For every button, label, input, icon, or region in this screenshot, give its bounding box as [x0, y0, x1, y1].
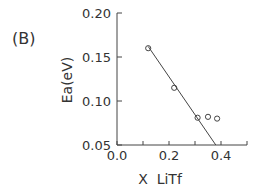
plot-area	[146, 46, 220, 145]
y-tick-label: 0.15	[82, 50, 111, 65]
fit-line	[148, 46, 216, 145]
panel-label: (B)	[12, 29, 35, 48]
data-point	[146, 46, 151, 51]
x-ticks: 0.00.20.4	[107, 141, 247, 163]
data-point	[215, 116, 220, 121]
y-axis-label: Ea(eV)	[59, 57, 75, 104]
x-tick-label: 0.4	[211, 148, 232, 163]
data-point	[205, 114, 210, 119]
y-tick-label: 0.10	[82, 94, 111, 109]
y-tick-label: 0.20	[82, 6, 111, 21]
x-axis-label: X LiTf	[138, 171, 183, 187]
chart: (B) 0.050.100.150.20 0.00.20.4 Ea(eV) X …	[0, 0, 260, 188]
x-tick-label: 0.2	[159, 148, 180, 163]
y-ticks: 0.050.100.150.20	[82, 6, 122, 153]
x-tick-label: 0.0	[107, 148, 128, 163]
